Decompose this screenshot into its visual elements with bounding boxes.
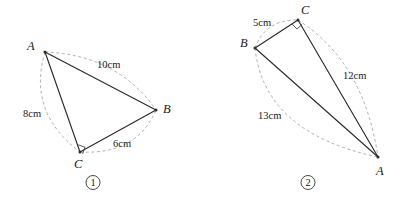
figure-2: B C A 5cm 12cm 13cm 2 [240,3,384,190]
vertex-dot-c-figure-2 [297,19,300,22]
vertex-dot-b-figure-1 [155,109,158,112]
vertex-label-c-figure-2: C [301,3,310,17]
vertex-dot-c-figure-1 [79,151,82,154]
vertex-label-c-figure-1: C [74,157,83,171]
vertex-label-b-figure-2: B [240,36,248,50]
vertex-label-a-figure-1: A [26,39,35,53]
length-label-ca-figure-2: 12cm [343,70,366,81]
length-label-bc-figure-2: 5cm [253,17,271,28]
length-label-ac-figure-1: 8cm [23,108,41,119]
vertex-dot-a-figure-2 [377,156,380,159]
vertex-label-b-figure-1: B [163,102,171,116]
figure-number-label-1: 1 [90,177,95,188]
figure-number-label-2: 2 [305,177,310,188]
geometry-figure-root: A B C 10cm 8cm 6cm 1 [0,0,405,207]
diagram-canvas: A B C 10cm 8cm 6cm 1 [0,0,405,207]
length-label-ba-figure-2: 13cm [258,110,281,121]
triangle-side-ca-figure-2 [298,20,378,157]
figure-number-2: 2 [301,176,315,190]
vertex-dot-a-figure-1 [44,51,47,54]
vertex-dot-b-figure-2 [254,47,257,50]
length-label-cb-figure-1: 6cm [113,138,131,149]
figure-number-1: 1 [86,176,100,190]
length-label-ab-figure-1: 10cm [97,59,120,70]
figure-1: A B C 10cm 8cm 6cm 1 [23,39,171,190]
triangle-side-ba-figure-2 [255,48,378,157]
vertex-label-a-figure-2: A [375,164,384,178]
